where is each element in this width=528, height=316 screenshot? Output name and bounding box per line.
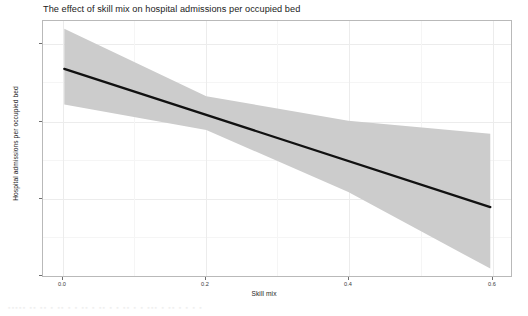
tick-mark-y	[39, 43, 42, 44]
tick-label-x-00: 0.0	[48, 281, 76, 287]
axis-title-y: Hospital admissions per occupied bed	[12, 69, 19, 219]
tick-label-x-02: 0.2	[191, 281, 219, 287]
tick-mark-x	[62, 277, 63, 280]
tick-mark-x	[348, 277, 349, 280]
tick-mark-y	[39, 121, 42, 122]
plot-panel	[42, 20, 512, 277]
figure-container: The effect of skill mix on hospital admi…	[0, 0, 528, 316]
plot-graphics	[43, 21, 512, 277]
bleed-text: ▪▪▪▪▪ ▪▪ ▪▪ ▪ ▪▪ ▪ ▪ ▪▪ ▪ ▪▪ ▪ ▪ ▪▪ ▪ ▪ …	[8, 304, 203, 311]
tick-label-x-04: 0.4	[334, 281, 362, 287]
tick-label-x-06: 0.6	[478, 281, 506, 287]
confidence-band-area	[64, 29, 490, 269]
tick-mark-x	[205, 277, 206, 280]
chart-title: The effect of skill mix on hospital admi…	[43, 3, 300, 15]
gridline-major-y	[43, 276, 511, 277]
tick-mark-y	[39, 275, 42, 276]
tick-mark-x	[492, 277, 493, 280]
axis-title-x: Skill mix	[0, 290, 528, 297]
tick-mark-y	[39, 198, 42, 199]
page-bleedthrough-artifacts: ▪▪▪▪▪ ▪▪ ▪▪ ▪ ▪▪ ▪ ▪ ▪▪ ▪ ▪▪ ▪ ▪ ▪▪ ▪ ▪ …	[0, 300, 528, 316]
